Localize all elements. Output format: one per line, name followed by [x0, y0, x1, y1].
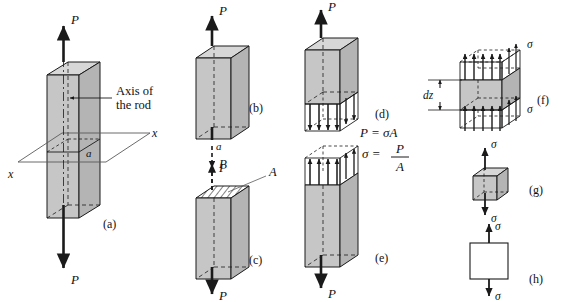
panel-d: P P = σA (d)	[305, 0, 397, 140]
panel-b: P P a (b)	[196, 3, 263, 175]
panel-f-stress-top-label: σ	[527, 38, 534, 50]
panel-f-tag: (f)	[537, 93, 549, 107]
panel-g-tag: (g)	[529, 183, 543, 197]
panel-e-equation: σ = P A	[362, 141, 409, 174]
panel-d-tag: (d)	[375, 107, 389, 121]
panel-a-section-mark-label: a	[86, 147, 92, 159]
panel-a-load-top-label: P	[70, 12, 79, 27]
panel-a-section-left-label: x	[7, 167, 14, 181]
panel-d-prism	[305, 38, 358, 104]
panel-e-equation-lhs: σ =	[362, 146, 380, 161]
panel-a: P P Axis of the rod x x a (a)	[7, 12, 158, 287]
panel-b-section-mark-label: a	[216, 140, 222, 152]
panel-h: σ σ (h)	[470, 220, 543, 302]
panel-g: σ σ (g)	[473, 138, 543, 224]
panel-b-tag: (b)	[249, 101, 263, 115]
panel-e-tag: (e)	[375, 251, 388, 265]
panel-d-equation: P = σA	[359, 125, 397, 140]
panel-b-prism	[196, 46, 249, 139]
panel-c-load-bottom-label: P	[218, 288, 227, 302]
panel-e-equation-denominator: A	[395, 159, 404, 174]
panel-a-section-right-label: x	[151, 126, 158, 140]
panel-b-load-top-label: P	[218, 3, 227, 18]
panel-a-prism	[47, 62, 100, 218]
panel-h-stress-top-label: σ	[495, 220, 502, 232]
panel-h-tag: (h)	[529, 272, 543, 286]
panel-a-axis-label-line2: the rod	[116, 98, 152, 112]
panel-a-load-bottom-label: P	[70, 272, 79, 287]
panel-c: P P A (c)	[196, 156, 277, 302]
panel-c-prism	[196, 186, 249, 279]
figure-canvas: P P Axis of the rod x x a (a) P P a	[0, 0, 564, 302]
panel-g-cube	[473, 168, 508, 200]
panel-f-stress-bottom-label: σ	[527, 103, 534, 115]
axial-stress-figure: P P Axis of the rod x x a (a) P P a	[0, 0, 564, 302]
panel-c-tag: (c)	[249, 253, 262, 267]
panel-c-load-top-label: P	[218, 156, 227, 171]
panel-d-load-top-label: P	[327, 0, 336, 14]
panel-f-dz-label: dz	[423, 89, 434, 101]
panel-g-stress-top-label: σ	[491, 138, 498, 150]
panel-e-load-bottom-label: P	[327, 286, 336, 301]
panel-a-axis-label-line1: Axis of	[116, 84, 154, 98]
panel-e: P σ = P A (e)	[305, 141, 409, 301]
panel-h-square	[470, 243, 508, 279]
panel-f: dz σ σ (f)	[423, 38, 549, 131]
panel-c-area-label: A	[268, 165, 277, 179]
panel-f-dz-dimension: dz	[423, 80, 462, 110]
panel-a-tag: (a)	[103, 217, 116, 231]
panel-e-prism	[305, 173, 358, 267]
panel-e-equation-numerator: P	[395, 141, 404, 156]
panel-h-stress-bottom-label: σ	[495, 290, 502, 302]
